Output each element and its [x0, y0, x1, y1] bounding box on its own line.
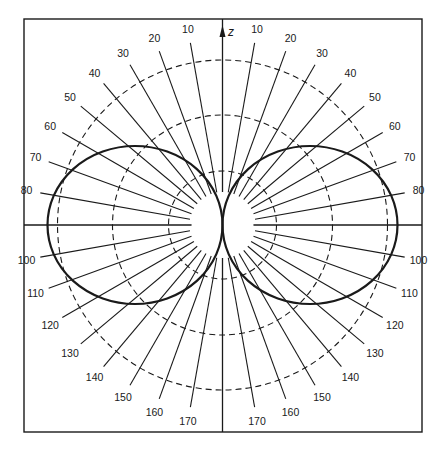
radial-line-50-left	[81, 106, 197, 204]
angle-label-100-left: 100	[18, 254, 36, 266]
radial-line-20-left	[159, 51, 211, 194]
angle-label-50-right: 50	[369, 91, 381, 103]
radial-line-120-right	[251, 242, 383, 318]
angle-label-70-left: 70	[30, 151, 42, 163]
angle-label-40-left: 40	[89, 67, 101, 79]
polar-diagram: 1010202030304040505060607070808010010011…	[0, 0, 440, 451]
dipole-radiation-pattern-figure: 1010202030304040505060607070808010010011…	[0, 0, 440, 451]
radial-line-100-right	[255, 231, 405, 257]
angle-label-60-right: 60	[389, 120, 401, 132]
z-axis-label: z	[227, 25, 234, 39]
angle-label-120-right: 120	[386, 319, 404, 331]
angle-label-30-right: 30	[316, 47, 328, 59]
angle-label-110-left: 110	[27, 287, 44, 299]
radial-line-140-right	[244, 250, 342, 366]
radial-line-130-left	[81, 246, 197, 344]
angle-label-20-right: 20	[285, 32, 297, 44]
radial-line-60-right	[251, 133, 383, 209]
radial-line-160-left	[159, 256, 211, 399]
angle-label-140-right: 140	[342, 371, 360, 383]
radial-line-170-left	[190, 257, 216, 407]
angle-label-50-left: 50	[64, 91, 76, 103]
angle-label-140-left: 140	[86, 371, 104, 383]
radial-line-140-left	[104, 250, 202, 366]
angle-label-70-right: 70	[404, 151, 416, 163]
angle-label-160-left: 160	[146, 406, 164, 418]
radial-line-10-right	[228, 43, 254, 193]
radial-line-20-right	[234, 51, 286, 194]
radial-line-70-right	[254, 162, 397, 214]
angle-label-40-right: 40	[345, 67, 357, 79]
radial-line-50-right	[248, 106, 364, 204]
angle-label-150-left: 150	[114, 391, 132, 403]
radial-line-150-right	[239, 254, 315, 386]
angle-label-120-left: 120	[41, 319, 59, 331]
radial-line-60-left	[62, 133, 194, 209]
angle-label-10-right: 10	[251, 23, 263, 35]
radial-line-150-left	[130, 254, 206, 386]
angle-label-130-right: 130	[366, 347, 384, 359]
z-axis-arrow-top-icon	[220, 25, 226, 37]
radial-line-120-left	[62, 242, 194, 318]
radial-line-30-right	[239, 65, 315, 197]
angle-label-110-right: 110	[401, 287, 418, 299]
radial-line-130-right	[248, 246, 364, 344]
radial-line-30-left	[130, 65, 206, 197]
angle-label-20-left: 20	[149, 32, 161, 44]
angle-label-80-left: 80	[21, 184, 33, 196]
angle-label-100-right: 100	[410, 254, 428, 266]
radial-line-160-right	[234, 256, 286, 399]
angle-label-130-left: 130	[61, 347, 79, 359]
radial-line-80-left	[40, 193, 190, 219]
radial-line-100-left	[40, 231, 190, 257]
angle-label-80-right: 80	[413, 184, 425, 196]
radial-line-70-left	[49, 162, 192, 214]
angle-label-170-right: 170	[248, 415, 266, 427]
radial-line-110-right	[254, 236, 397, 288]
angle-label-60-left: 60	[44, 120, 56, 132]
angle-label-160-right: 160	[282, 406, 300, 418]
radial-line-40-right	[244, 83, 342, 199]
angle-label-150-right: 150	[313, 391, 331, 403]
radial-line-110-left	[49, 236, 192, 288]
radial-line-80-right	[255, 193, 405, 219]
angle-label-170-left: 170	[179, 415, 197, 427]
radial-line-10-left	[190, 43, 216, 193]
radial-line-40-left	[104, 83, 202, 199]
angle-label-30-left: 30	[117, 47, 129, 59]
radial-line-170-right	[228, 257, 254, 407]
angle-label-10-left: 10	[182, 23, 194, 35]
